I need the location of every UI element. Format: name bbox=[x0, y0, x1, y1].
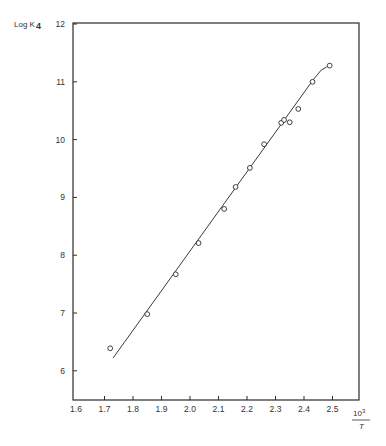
data-point-circle-icon bbox=[262, 142, 267, 147]
x-axis-label-denominator: T bbox=[359, 422, 365, 431]
x-tick-label: 2.4 bbox=[298, 404, 310, 414]
x-label-exponent: 3 bbox=[362, 408, 366, 414]
plot-frame bbox=[73, 23, 359, 400]
data-point-circle-icon bbox=[327, 63, 332, 68]
chart: 6789101112 1.61.71.81.92.02.12.22.32.42.… bbox=[0, 0, 386, 446]
x-tick-label: 2.1 bbox=[213, 404, 225, 414]
data-point-circle-icon bbox=[222, 207, 227, 212]
x-axis-ticks: 1.61.71.81.92.02.12.22.32.42.5 bbox=[70, 396, 339, 414]
y-tick-label: 10 bbox=[56, 135, 66, 145]
data-point-circle-icon bbox=[310, 79, 315, 84]
data-point-circle-icon bbox=[233, 185, 238, 190]
data-point-circle-icon bbox=[173, 272, 178, 277]
y-axis-ticks: 6789101112 bbox=[56, 19, 77, 376]
x-axis-label: 103 T bbox=[352, 408, 370, 431]
x-axis-label-numerator: 103 bbox=[353, 408, 366, 418]
y-tick-label: 9 bbox=[60, 192, 65, 202]
x-tick-label: 1.7 bbox=[99, 404, 111, 414]
x-tick-label: 2.2 bbox=[241, 404, 253, 414]
data-point-circle-icon bbox=[196, 241, 201, 246]
y-tick-label: 6 bbox=[60, 366, 65, 376]
data-points bbox=[108, 63, 332, 350]
x-tick-label: 2.0 bbox=[184, 404, 196, 414]
y-tick-label: 11 bbox=[56, 77, 65, 87]
plot-border bbox=[73, 23, 359, 400]
y-tick-label: 8 bbox=[60, 250, 65, 260]
x-tick-label: 2.3 bbox=[270, 404, 282, 414]
x-tick-label: 2.5 bbox=[327, 404, 339, 414]
y-axis-label-subscript: 4 bbox=[36, 21, 41, 31]
x-tick-label: 1.9 bbox=[156, 404, 168, 414]
data-point-circle-icon bbox=[287, 120, 292, 125]
data-point-circle-icon bbox=[296, 107, 301, 112]
y-tick-label: 7 bbox=[60, 308, 65, 318]
y-axis-label-main: Log K bbox=[14, 20, 36, 29]
x-tick-label: 1.8 bbox=[127, 404, 139, 414]
data-point-circle-icon bbox=[145, 312, 150, 317]
data-point-circle-icon bbox=[108, 346, 113, 351]
y-axis-label: Log K4 bbox=[14, 20, 41, 31]
axis-labels: Log K4 103 T bbox=[14, 20, 370, 431]
x-tick-label: 1.6 bbox=[70, 404, 82, 414]
data-point-circle-icon bbox=[247, 166, 252, 171]
data-point-circle-icon bbox=[282, 118, 287, 123]
y-tick-label: 12 bbox=[56, 19, 66, 29]
